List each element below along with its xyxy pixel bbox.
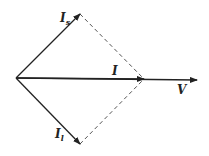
phasor-diagram: Is I V Il <box>0 0 209 156</box>
vector-il <box>16 78 80 144</box>
label-i: I <box>111 64 118 78</box>
label-is: Is <box>59 11 71 27</box>
vector-is <box>16 14 80 78</box>
label-v: V <box>177 83 188 97</box>
label-il: Il <box>54 127 64 143</box>
dashed-line-lower <box>80 79 144 144</box>
